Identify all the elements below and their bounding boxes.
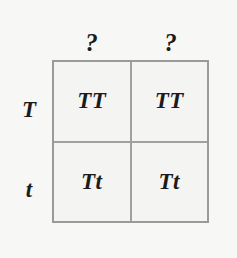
column-header-allele-2: ? xyxy=(131,29,210,57)
punnett-cell-row1-col1: Tt xyxy=(131,142,208,222)
punnett-cell-row0-col0: TT xyxy=(54,62,131,142)
row-header-allele-2: t xyxy=(8,177,50,203)
punnett-square-figure: ? ? T t TT TT Tt Tt xyxy=(0,0,237,258)
punnett-cell-row1-col0: Tt xyxy=(54,142,131,222)
punnett-cell-row0-col1: TT xyxy=(131,62,208,142)
column-header-allele-1: ? xyxy=(52,29,131,57)
punnett-grid: TT TT Tt Tt xyxy=(52,60,209,223)
row-header-allele-1: T xyxy=(8,97,50,123)
